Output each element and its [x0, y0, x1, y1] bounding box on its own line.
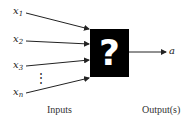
output-label: a [169, 46, 175, 56]
black-box: ? [90, 29, 129, 77]
input-label-x3: x3 [13, 60, 23, 72]
question-mark-icon: ? [99, 35, 120, 71]
input-label-x1: x1 [13, 6, 23, 18]
input-label-xn: xn [13, 87, 23, 99]
inputs-caption: Inputs [47, 105, 72, 115]
ellipsis: ⋮ [35, 72, 47, 84]
input-label-x2: x2 [13, 34, 23, 46]
input-arrow-1 [26, 13, 89, 29]
outputs-caption: Output(s) [142, 105, 180, 115]
input-arrow-3 [26, 60, 89, 66]
input-arrow-2 [26, 41, 89, 44]
